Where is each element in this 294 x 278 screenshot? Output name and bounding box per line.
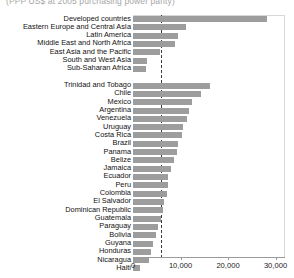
bar [133, 199, 164, 205]
bar [133, 99, 192, 105]
bar [133, 83, 210, 89]
bar [133, 124, 183, 130]
bar [133, 249, 151, 255]
tick-mark [181, 257, 182, 260]
bar [133, 224, 158, 230]
bar [133, 174, 168, 180]
bar [133, 116, 187, 122]
category-label: Ecuador [0, 172, 131, 180]
bar [133, 182, 168, 188]
x-axis-ticks: 010,00020,00030,000 [0, 257, 294, 277]
bar [133, 166, 171, 172]
bar [133, 216, 161, 222]
bar [133, 132, 182, 138]
category-label: Sub-Saharan Africa [0, 64, 131, 72]
category-label: Costa Rica [0, 131, 131, 139]
bar [133, 91, 201, 97]
bar-rows: Developed countriesEastern Europe and Ce… [0, 15, 294, 273]
tick-label: 10,000 [169, 261, 192, 270]
bar [133, 157, 174, 163]
bar [133, 33, 178, 39]
bar [133, 66, 146, 72]
bar [133, 49, 160, 55]
bar [133, 241, 153, 247]
bar [133, 149, 177, 155]
bar [133, 58, 147, 64]
chart-container: (PPP US$ at 2005 purchasing power parity… [0, 0, 294, 278]
bar [133, 207, 163, 213]
bar [133, 16, 267, 22]
bar [133, 232, 156, 238]
tick-label: 30,000 [264, 261, 287, 270]
bar [133, 191, 167, 197]
tick-mark [276, 257, 277, 260]
chart-subtitle: (PPP US$ at 2005 purchasing power parity… [6, 0, 246, 6]
bar [133, 108, 189, 114]
category-label: Trinidad and Tobago [0, 81, 131, 89]
tick-mark [228, 257, 229, 260]
tick-label: 0 [131, 261, 135, 270]
bar [133, 141, 178, 147]
chart-row: Sub-Saharan Africa [0, 65, 294, 73]
tick-mark [133, 257, 134, 260]
bar [133, 24, 186, 30]
tick-label: 20,000 [216, 261, 239, 270]
bar [133, 41, 175, 47]
